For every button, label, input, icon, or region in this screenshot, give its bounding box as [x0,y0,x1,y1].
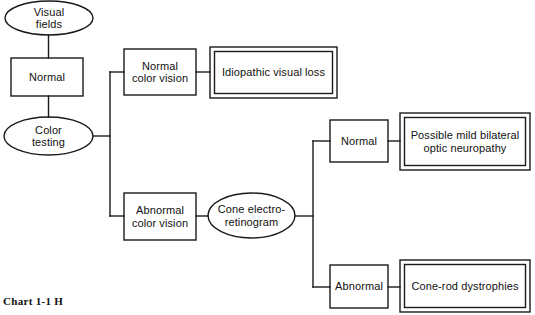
node-shape-cone-rod-outer [400,260,530,312]
node-shape-abnormal-color-vision [124,193,196,240]
node-shape-idiopathic-loss-inner [215,52,333,94]
node-shape-optic-neuropathy-inner [405,118,526,166]
node-shape-color-testing [4,117,93,155]
node-shape-visual-fields [5,1,93,35]
flowchart-page: Visual fields Normal Color testing Norma… [0,0,535,315]
node-shape-erg-normal [330,120,388,162]
node-shape-normal-color-vision [124,49,196,95]
node-shape-optic-neuropathy-outer [400,113,530,170]
node-shape-normal-fields [11,58,83,96]
flowchart-canvas [0,0,535,315]
node-shape-idiopathic-loss-outer [210,47,337,98]
node-shape-cone-rod-inner [405,265,526,308]
node-shape-erg-abnormal [330,265,388,308]
chart-caption: Chart 1-1 H [3,295,63,307]
node-shape-cone-erg [208,193,295,238]
